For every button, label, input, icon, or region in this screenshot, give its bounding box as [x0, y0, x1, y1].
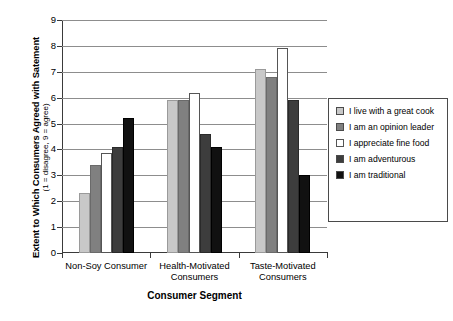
legend-label: I am traditional: [349, 170, 445, 180]
legend-swatch-icon: [336, 155, 344, 163]
y-axis-tick-label: 3: [36, 170, 56, 180]
chart-legend: I live with a great cookI am an opinion …: [328, 98, 448, 222]
x-axis-category-label: Taste-Motivated Consumers: [239, 261, 327, 283]
y-axis-tick: [57, 201, 62, 202]
y-axis-tick-labels: 0123456789: [34, 20, 56, 253]
y-axis-tick: [57, 227, 62, 228]
legend-item: I live with a great cook: [336, 106, 447, 116]
bar: [90, 165, 101, 253]
y-axis-tick-label: 0: [36, 248, 56, 258]
legend-label: I am an opinion leader: [349, 122, 445, 132]
legend-item: I appreciate fine food: [336, 138, 447, 148]
bar: [266, 77, 277, 253]
x-axis-category-label: Non-Soy Consumer: [62, 261, 150, 272]
y-axis-tick-label: 4: [36, 144, 56, 154]
bar-chart: Extent to Which Consumers Agreed with Sa…: [0, 0, 453, 321]
y-axis-tick-label: 1: [36, 222, 56, 232]
bar: [299, 175, 310, 253]
bar: [255, 69, 266, 253]
y-axis-line: [62, 20, 63, 253]
y-axis-tick-label: 2: [36, 196, 56, 206]
bar: [211, 147, 222, 253]
y-axis-tick: [57, 149, 62, 150]
y-axis-tick-label: 7: [36, 67, 56, 77]
legend-item: I am an opinion leader: [336, 122, 447, 132]
y-axis-tick: [57, 124, 62, 125]
bar-group: [79, 20, 134, 253]
y-axis-tick: [57, 20, 62, 21]
bar: [277, 48, 288, 253]
y-axis-tick-label: 5: [36, 119, 56, 129]
legend-swatch-icon: [336, 171, 344, 179]
x-axis-tick: [327, 253, 328, 258]
bar: [79, 193, 90, 253]
bar: [101, 153, 112, 253]
y-axis-tick: [57, 46, 62, 47]
legend-swatch-icon: [336, 107, 344, 115]
y-axis-tick: [57, 175, 62, 176]
x-axis-title: Consumer Segment: [62, 290, 327, 301]
bar-group: [167, 20, 222, 253]
y-axis-tick: [57, 72, 62, 73]
y-axis-tick: [57, 98, 62, 99]
legend-label: I am adventurous: [349, 154, 445, 164]
bar: [167, 100, 178, 253]
bar-group: [255, 20, 310, 253]
x-axis-tick: [62, 253, 63, 258]
legend-label: I live with a great cook: [349, 106, 445, 116]
x-axis-category-label: Health-Motivated Consumers: [150, 261, 238, 283]
legend-label: I appreciate fine food: [349, 138, 445, 148]
plot-area: [62, 20, 327, 253]
y-axis-tick-label: 6: [36, 93, 56, 103]
bar: [178, 100, 189, 253]
bar: [123, 118, 134, 253]
x-axis-tick: [239, 253, 240, 258]
y-axis-tick-label: 8: [36, 41, 56, 51]
legend-item: I am traditional: [336, 170, 447, 180]
legend-swatch-icon: [336, 139, 344, 147]
bar: [200, 134, 211, 253]
legend-swatch-icon: [336, 123, 344, 131]
legend-item: I am adventurous: [336, 154, 447, 164]
y-axis-tick-label: 9: [36, 15, 56, 25]
x-axis-tick: [150, 253, 151, 258]
bar: [112, 147, 123, 253]
bar: [288, 100, 299, 253]
bar: [189, 93, 200, 254]
